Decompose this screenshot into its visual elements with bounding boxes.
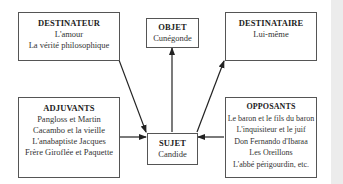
- adjuvants-line: L'anabaptiste Jacques: [19, 136, 119, 147]
- destinataire-line: Lui-même: [226, 29, 316, 40]
- adjuvants-title: ADJUVANTS: [19, 103, 119, 114]
- sujet-box: SUJET Candide: [147, 133, 198, 165]
- opposants-line: Les Oreillons: [226, 147, 316, 159]
- destinataire-title: DESTINATAIRE: [226, 18, 316, 29]
- arrow-destinateur-to-sujet: [119, 60, 146, 132]
- objet-box: OBJET Cunégonde: [146, 18, 199, 48]
- opposants-line: L'abbé périgourdin, etc.: [226, 159, 316, 171]
- sujet-title: SUJET: [148, 138, 197, 149]
- opposants-box: OPPOSANTS Le baron et le fils du baron L…: [225, 97, 317, 178]
- adjuvants-line: Frère Giroflée et Paquette: [19, 147, 119, 158]
- opposants-line: L'inquisiteur et le juif: [226, 124, 316, 136]
- destinateur-line: La vérité philosophique: [19, 40, 119, 51]
- destinataire-box: DESTINATAIRE Lui-même: [225, 12, 317, 61]
- adjuvants-line: Cacambo et la vieille: [19, 125, 119, 136]
- page-edge-strip: [331, 0, 343, 184]
- opposants-line: Don Fernando d'Ibaraa: [226, 136, 316, 148]
- sujet-line: Candide: [148, 149, 197, 160]
- opposants-line: Le baron et le fils du baron: [226, 113, 316, 125]
- adjuvants-box: ADJUVANTS Pangloss et Martin Cacambo et …: [18, 97, 120, 178]
- destinateur-title: DESTINATEUR: [19, 18, 119, 29]
- objet-title: OBJET: [147, 22, 198, 33]
- opposants-title: OPPOSANTS: [226, 101, 316, 113]
- destinateur-line: L'amour: [19, 29, 119, 40]
- destinateur-box: DESTINATEUR L'amour La vérité philosophi…: [18, 12, 120, 61]
- objet-line: Cunégonde: [147, 33, 198, 44]
- adjuvants-line: Pangloss et Martin: [19, 114, 119, 125]
- arrow-sujet-to-destinataire: [197, 61, 224, 132]
